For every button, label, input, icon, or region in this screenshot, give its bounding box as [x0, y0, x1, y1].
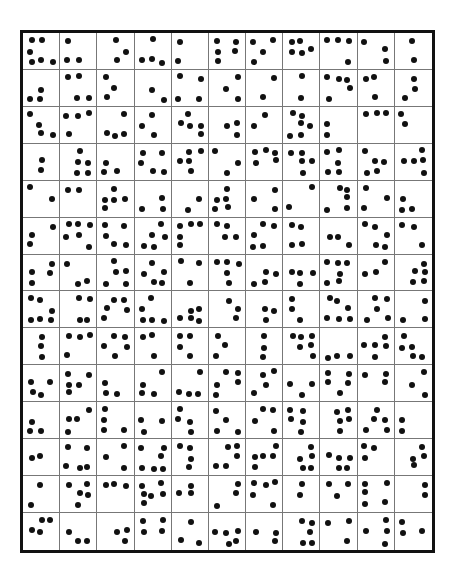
- grid-cell: [97, 365, 134, 402]
- dot: [345, 380, 351, 386]
- dot: [38, 130, 44, 136]
- dot: [114, 391, 120, 397]
- dot: [139, 123, 145, 129]
- dot: [309, 381, 315, 387]
- grid-cell: [320, 218, 357, 255]
- dot: [344, 260, 350, 266]
- grid-cell: [23, 476, 60, 513]
- dot: [327, 234, 333, 240]
- grid-cell: [395, 218, 432, 255]
- dot: [421, 170, 427, 176]
- dot: [186, 464, 192, 470]
- grid-cell: [246, 181, 283, 218]
- dot: [345, 305, 351, 311]
- dot: [177, 315, 183, 321]
- dot: [30, 389, 36, 395]
- grid-cell: [97, 476, 134, 513]
- dot: [123, 242, 129, 248]
- dot: [362, 372, 368, 378]
- dot: [175, 58, 181, 64]
- grid-cell: [283, 181, 320, 218]
- grid-cell: [209, 328, 246, 365]
- dot: [233, 39, 239, 45]
- dot: [37, 529, 43, 535]
- dot: [235, 160, 241, 166]
- dot: [177, 39, 183, 45]
- dot: [187, 123, 193, 129]
- grid-cell: [172, 439, 209, 476]
- grid-cell: [172, 107, 209, 144]
- dot: [344, 205, 350, 211]
- dot: [27, 49, 33, 55]
- grid-cell: [97, 218, 134, 255]
- dot: [64, 352, 70, 358]
- dot: [399, 519, 405, 525]
- grid-cell: [209, 70, 246, 107]
- grid-cell: [172, 255, 209, 292]
- dot: [75, 113, 81, 119]
- dot: [383, 371, 389, 377]
- dot: [215, 333, 221, 339]
- dot: [50, 224, 56, 230]
- dot: [188, 315, 194, 321]
- dot: [139, 57, 145, 63]
- dot: [252, 418, 258, 424]
- dot: [234, 443, 240, 449]
- dot: [213, 408, 219, 414]
- dot: [260, 221, 266, 227]
- dot: [65, 429, 71, 435]
- grid-cell: [209, 476, 246, 513]
- grid-cell: [283, 255, 320, 292]
- grid-cell: [358, 513, 395, 550]
- dot: [260, 354, 266, 360]
- dot: [214, 259, 220, 265]
- dot: [86, 372, 92, 378]
- dot: [196, 318, 202, 324]
- dot: [411, 462, 417, 468]
- grid-cell: [135, 181, 172, 218]
- dot: [363, 427, 369, 433]
- dot: [112, 353, 118, 359]
- dot: [160, 206, 166, 212]
- dot: [39, 334, 45, 340]
- dot: [361, 205, 367, 211]
- dot: [297, 270, 303, 276]
- dot: [372, 94, 378, 100]
- grid-cell: [395, 107, 432, 144]
- dot: [76, 187, 82, 193]
- dot: [224, 123, 230, 129]
- dot: [214, 221, 220, 227]
- grid-cell: [283, 328, 320, 365]
- dot: [345, 407, 351, 413]
- grid-cell: [395, 439, 432, 476]
- dot: [324, 207, 330, 213]
- grid-cell: [395, 402, 432, 439]
- grid-cell: [209, 181, 246, 218]
- grid-cell: [246, 328, 283, 365]
- dot: [87, 332, 93, 338]
- dot: [326, 452, 332, 458]
- dot: [122, 196, 128, 202]
- dot: [233, 490, 239, 496]
- dot: [214, 382, 220, 388]
- dot: [308, 444, 314, 450]
- dot: [260, 243, 266, 249]
- grid-cell: [60, 328, 97, 365]
- grid-cell: [320, 144, 357, 181]
- dot: [324, 259, 330, 265]
- dot: [298, 95, 304, 101]
- dot: [29, 280, 35, 286]
- dot: [101, 343, 107, 349]
- dot: [324, 37, 330, 43]
- dot: [214, 197, 220, 203]
- dot: [272, 479, 278, 485]
- dot: [308, 465, 314, 471]
- dot: [75, 281, 81, 287]
- grid-cell: [358, 365, 395, 402]
- dot: [112, 133, 118, 139]
- grid-cell: [60, 513, 97, 550]
- dot: [75, 159, 81, 165]
- dot: [141, 500, 147, 506]
- dot: [327, 295, 333, 301]
- dot: [176, 490, 182, 496]
